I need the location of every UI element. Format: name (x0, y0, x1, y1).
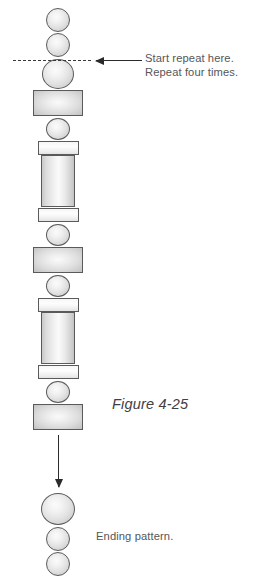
ending-pattern-arrow (58, 435, 59, 487)
bead-tube-1 (41, 155, 75, 207)
arrow-head-down-icon (55, 479, 63, 488)
figure-caption: Figure 4-25 (112, 396, 188, 412)
bead-tube-2 (41, 312, 75, 364)
bead-disc-4 (38, 365, 79, 379)
bead-disc-1 (38, 141, 79, 155)
repeat-start-dashed-line (13, 60, 91, 61)
bead-round-small-6 (46, 381, 70, 403)
repeat-note-line-2: Repeat four times. (145, 66, 238, 80)
bead-rect-wide-1 (33, 90, 83, 116)
bead-disc-2 (38, 208, 79, 222)
bead-round-small-3 (46, 118, 70, 140)
repeat-pointer-arrow (96, 60, 142, 61)
arrow-head-left-icon (95, 57, 104, 65)
bead-round-small-5 (46, 275, 70, 297)
bead-round-end-3 (46, 552, 70, 576)
bead-round-small-2 (46, 33, 70, 57)
bead-disc-3 (38, 298, 79, 312)
repeat-instruction-note: Start repeat here. Repeat four times. (145, 52, 238, 79)
bead-round-small-1 (46, 8, 70, 32)
bead-round-large-1 (42, 59, 74, 89)
bead-round-end-1 (41, 493, 75, 525)
bead-round-end-2 (46, 527, 70, 551)
repeat-note-line-1: Start repeat here. (145, 52, 238, 66)
bead-rect-wide-3 (33, 404, 83, 430)
ending-pattern-label: Ending pattern. (96, 530, 173, 544)
bead-rect-wide-2 (33, 247, 83, 273)
bead-round-small-4 (46, 224, 70, 246)
